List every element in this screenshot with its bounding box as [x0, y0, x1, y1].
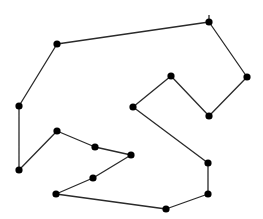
vertex-node-0 — [205, 18, 212, 25]
vertex-node-2 — [15, 102, 22, 109]
vertex-node-1 — [53, 40, 60, 47]
vertex-node-11 — [204, 159, 211, 166]
vertex-node-7 — [89, 174, 96, 181]
vertex-node-4 — [53, 127, 60, 134]
vertex-node-9 — [162, 205, 169, 212]
vertex-node-10 — [204, 190, 211, 197]
vertex-node-13 — [167, 72, 174, 79]
vertex-node-12 — [129, 103, 136, 110]
vertex-node-3 — [15, 166, 22, 173]
polygon-diagram — [0, 0, 263, 219]
vertex-node-5 — [91, 143, 98, 150]
vertex-node-14 — [205, 112, 212, 119]
vertex-node-15 — [243, 73, 250, 80]
vertex-node-8 — [52, 190, 59, 197]
vertex-node-6 — [127, 151, 134, 158]
